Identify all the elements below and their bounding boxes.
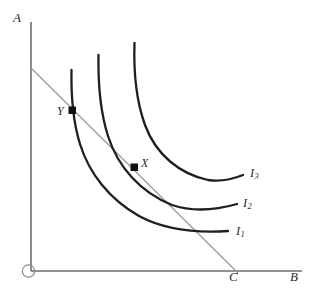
curve-label-i1: I1 bbox=[236, 225, 245, 239]
point-label-x: X bbox=[141, 157, 148, 169]
point-marker-x bbox=[131, 164, 139, 172]
budget-line-intercept-label: C bbox=[229, 270, 238, 283]
x-axis-label: B bbox=[290, 270, 298, 283]
curve-label-i3: I3 bbox=[250, 167, 259, 181]
point-marker-y bbox=[69, 107, 77, 115]
curve-label-i3-subscript: 3 bbox=[254, 171, 259, 181]
curve-label-i1-subscript: 1 bbox=[240, 229, 245, 239]
indifference-curve-figure: A B C X Y I3 I2 I1 bbox=[0, 0, 318, 298]
point-label-y: Y bbox=[57, 105, 64, 117]
curve-label-i2-subscript: 2 bbox=[247, 201, 252, 211]
y-axis-label: A bbox=[13, 11, 21, 24]
indifference-curve-i1 bbox=[71, 70, 228, 231]
indifference-curve-i2 bbox=[98, 55, 237, 209]
diagram-canvas bbox=[0, 0, 318, 298]
indifference-curve-i3 bbox=[134, 43, 243, 181]
curve-label-i2: I2 bbox=[243, 197, 252, 211]
